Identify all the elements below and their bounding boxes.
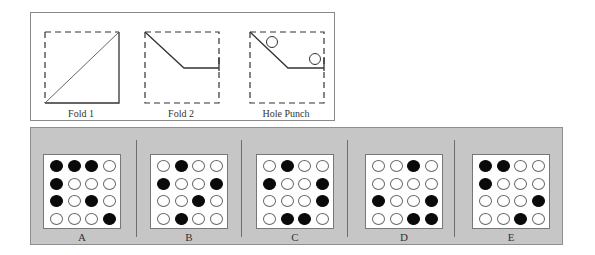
empty-hole-icon: [298, 178, 311, 190]
filled-hole-icon: [316, 178, 329, 190]
hole-punch-panel: Hole Punch: [236, 13, 336, 121]
filled-hole-icon: [175, 213, 188, 225]
empty-hole-icon: [85, 178, 98, 190]
filled-hole-icon: [407, 213, 420, 225]
empty-hole-icon: [103, 160, 116, 172]
filled-hole-icon: [192, 195, 205, 207]
fold-2-label: Fold 2: [131, 108, 231, 120]
empty-hole-icon: [192, 160, 205, 172]
option-label: A: [43, 231, 121, 243]
filled-hole-icon: [514, 213, 527, 225]
option-d[interactable]: D: [365, 128, 445, 244]
empty-hole-icon: [157, 213, 170, 225]
divider: [347, 140, 348, 237]
question-panel: Fold 1 Fold 2 Hole Punch: [30, 12, 335, 121]
filled-hole-icon: [479, 160, 492, 172]
filled-hole-icon: [372, 195, 385, 207]
option-label: D: [365, 231, 443, 243]
empty-hole-icon: [210, 160, 223, 172]
empty-hole-icon: [68, 178, 81, 190]
hole-grid: [150, 154, 228, 229]
empty-hole-icon: [390, 213, 403, 225]
empty-hole-icon: [532, 178, 545, 190]
empty-hole-icon: [175, 178, 188, 190]
filled-hole-icon: [263, 178, 276, 190]
empty-hole-icon: [497, 178, 510, 190]
empty-hole-icon: [390, 160, 403, 172]
filled-hole-icon: [103, 213, 116, 225]
filled-hole-icon: [425, 213, 438, 225]
empty-hole-icon: [316, 213, 329, 225]
option-e[interactable]: E: [472, 128, 552, 244]
empty-hole-icon: [316, 160, 329, 172]
empty-hole-icon: [407, 178, 420, 190]
empty-hole-icon: [479, 213, 492, 225]
filled-hole-icon: [157, 178, 170, 190]
punched-hole-icon: [310, 54, 321, 65]
empty-hole-icon: [263, 160, 276, 172]
empty-hole-icon: [192, 213, 205, 225]
filled-hole-icon: [316, 195, 329, 207]
option-label: E: [472, 231, 550, 243]
empty-hole-icon: [407, 195, 420, 207]
filled-hole-icon: [298, 213, 311, 225]
filled-hole-icon: [532, 195, 545, 207]
filled-hole-icon: [50, 160, 63, 172]
empty-hole-icon: [103, 178, 116, 190]
punched-hole-icon: [267, 37, 278, 48]
hole-punch-icon: [236, 13, 336, 108]
empty-hole-icon: [425, 178, 438, 190]
empty-hole-icon: [103, 195, 116, 207]
hole-grid: [43, 154, 121, 229]
divider: [454, 140, 455, 237]
empty-hole-icon: [425, 160, 438, 172]
empty-hole-icon: [263, 195, 276, 207]
hole-grid: [472, 154, 550, 229]
filled-hole-icon: [281, 213, 294, 225]
empty-hole-icon: [157, 160, 170, 172]
filled-hole-icon: [85, 195, 98, 207]
empty-hole-icon: [497, 213, 510, 225]
hole-grid: [256, 154, 334, 229]
empty-hole-icon: [85, 213, 98, 225]
empty-hole-icon: [372, 160, 385, 172]
empty-hole-icon: [281, 195, 294, 207]
option-label: B: [150, 231, 228, 243]
empty-hole-icon: [372, 213, 385, 225]
empty-hole-icon: [210, 213, 223, 225]
option-b[interactable]: B: [150, 128, 230, 244]
option-a[interactable]: A: [43, 128, 123, 244]
hole-grid: [365, 154, 443, 229]
fold-1-label: Fold 1: [31, 108, 131, 120]
filled-hole-icon: [210, 178, 223, 190]
empty-hole-icon: [281, 178, 294, 190]
filled-hole-icon: [425, 195, 438, 207]
fold-1-panel: Fold 1: [31, 13, 131, 121]
empty-hole-icon: [298, 160, 311, 172]
empty-hole-icon: [532, 213, 545, 225]
filled-hole-icon: [175, 160, 188, 172]
empty-hole-icon: [514, 160, 527, 172]
fold-diagonal-icon: [31, 13, 131, 108]
empty-hole-icon: [497, 195, 510, 207]
option-label: C: [256, 231, 334, 243]
empty-hole-icon: [390, 178, 403, 190]
empty-hole-icon: [532, 160, 545, 172]
empty-hole-icon: [479, 195, 492, 207]
fold-corner-icon: [131, 13, 231, 108]
empty-hole-icon: [210, 195, 223, 207]
empty-hole-icon: [192, 178, 205, 190]
filled-hole-icon: [68, 160, 81, 172]
hole-punch-label: Hole Punch: [236, 108, 336, 120]
filled-hole-icon: [50, 178, 63, 190]
filled-hole-icon: [407, 160, 420, 172]
empty-hole-icon: [175, 195, 188, 207]
filled-hole-icon: [85, 160, 98, 172]
empty-hole-icon: [372, 178, 385, 190]
empty-hole-icon: [514, 195, 527, 207]
divider: [241, 140, 242, 237]
empty-hole-icon: [514, 178, 527, 190]
option-c[interactable]: C: [256, 128, 336, 244]
empty-hole-icon: [157, 195, 170, 207]
empty-hole-icon: [68, 213, 81, 225]
